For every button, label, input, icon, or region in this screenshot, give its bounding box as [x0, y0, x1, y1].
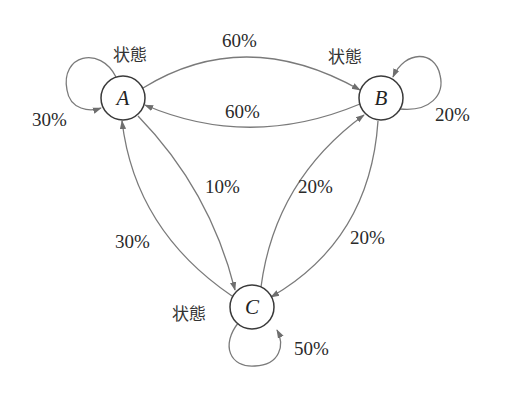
state-label-a: 状態: [113, 45, 147, 65]
edge-label-b-to-c: 20%: [350, 227, 385, 248]
edge-a-to-c: [138, 116, 235, 290]
state-transition-diagram: A B C 状態 状態 状態 60% 60% 10% 30% 20% 20% 3…: [0, 0, 505, 401]
state-label-c: 状態: [172, 304, 206, 324]
edge-c-to-b: [261, 115, 364, 287]
loop-label-b: 20%: [435, 104, 470, 125]
edge-b-to-c: [271, 121, 378, 297]
edge-label-a-to-b: 60%: [222, 30, 257, 51]
loop-label-c: 50%: [294, 338, 329, 359]
edge-label-b-to-a: 60%: [225, 101, 260, 122]
node-b: B: [359, 76, 403, 120]
edge-label-a-to-c: 10%: [205, 176, 240, 197]
edge-label-c-to-a: 30%: [115, 231, 150, 252]
node-b-label: B: [375, 86, 388, 110]
node-a-label: A: [115, 86, 130, 110]
node-c: C: [230, 285, 274, 329]
state-label-b: 状態: [328, 47, 362, 67]
node-c-label: C: [245, 295, 260, 319]
loop-label-a: 30%: [32, 109, 67, 130]
edge-label-c-to-b: 20%: [298, 176, 333, 197]
node-a: A: [101, 76, 145, 120]
edge-c-to-a: [122, 121, 232, 296]
